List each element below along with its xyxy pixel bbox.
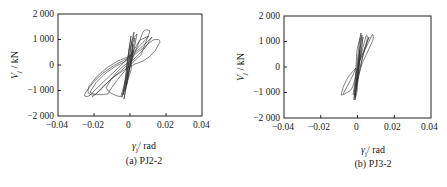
y-tick-label: 1 000 — [33, 34, 54, 44]
x-tick-label: 0.04 — [421, 122, 438, 132]
x-tick-label: 0.02 — [384, 122, 401, 132]
x-tick-label: 0.02 — [157, 120, 174, 130]
y-axis-label: Vj / kN — [235, 53, 249, 81]
y-axis-label: Vj / kN — [9, 51, 23, 79]
x-tick-label: 0 — [354, 122, 359, 132]
y-tick-label: 2 000 — [33, 9, 54, 19]
x-axis-label: γj/ rad — [333, 144, 413, 158]
x-tick-label: 0 — [126, 120, 131, 130]
x-tick-label: −0.04 — [46, 120, 68, 130]
figure-caption-faint — [60, 176, 390, 184]
x-tick-label: −0.02 — [308, 122, 330, 132]
panel-caption-b: (b) PJ3-2 — [313, 158, 433, 169]
y-tick-label: 0 — [49, 60, 54, 70]
panel-caption-a: (a) PJ2-2 — [84, 155, 204, 166]
y-tick-label: −1 000 — [27, 85, 54, 95]
x-tick-label: −0.04 — [272, 122, 294, 132]
x-tick-label: −0.02 — [82, 120, 104, 130]
x-tick-label: 0.04 — [193, 120, 210, 130]
y-tick-label: 1 000 — [259, 36, 280, 46]
chart-panel-a: 2 000 1 000 0 −1 000 −2 000 −0.04 −0.02 … — [0, 0, 223, 187]
x-axis-label: γj/ rad — [104, 140, 184, 154]
y-tick-label: 0 — [275, 62, 280, 72]
y-tick-label: 2 000 — [259, 11, 280, 21]
chart-panel-b: 2 000 1 000 0 −1 000 −2 000 −0.04 −0.02 … — [224, 0, 447, 187]
y-tick-label: −1 000 — [253, 87, 280, 97]
